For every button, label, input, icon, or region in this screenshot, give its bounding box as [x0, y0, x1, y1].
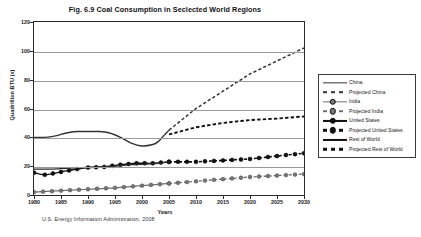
data-point-marker [275, 154, 279, 158]
y-tick-label: 120 [0, 19, 30, 25]
data-point-marker [266, 174, 270, 178]
plot-canvas [34, 22, 304, 195]
data-point-marker [68, 188, 72, 192]
legend-item-rest-of-world[interactable]: Rest of World [322, 135, 413, 145]
legend-item-projected-united-states[interactable]: Projected United States [322, 126, 413, 136]
legend-item-label: Rest of World [348, 135, 380, 144]
series-india [34, 182, 171, 194]
gridline [34, 81, 304, 82]
legend-swatch-icon [322, 97, 348, 106]
data-point-marker [257, 175, 261, 179]
data-point-marker [248, 175, 252, 179]
data-point-marker [149, 183, 153, 187]
legend-item-india[interactable]: India [322, 97, 413, 107]
legend-marker-icon [330, 127, 336, 133]
data-point-marker [176, 160, 180, 164]
legend-item-label: United States [348, 116, 380, 125]
y-tick-mark [30, 137, 33, 138]
x-tick-mark [169, 196, 170, 199]
data-point-marker [194, 179, 198, 183]
data-point-marker [266, 155, 270, 159]
legend-item-projected-india[interactable]: Projected India [322, 107, 413, 117]
data-point-marker [293, 173, 297, 177]
plot-area [33, 21, 305, 196]
gridline [34, 110, 304, 111]
x-tick-mark [115, 196, 116, 199]
y-tick-label: 60 [0, 106, 30, 112]
data-point-marker [203, 159, 207, 163]
data-point-marker [158, 182, 162, 186]
figure-coal-consumption: Fig. 6.9 Coal Consumption in Seclected W… [0, 0, 421, 237]
x-tick-mark [250, 196, 251, 199]
legend-item-projected-rest-of-world[interactable]: Projected Rest of World [322, 145, 413, 155]
x-tick-mark [142, 196, 143, 199]
data-point-marker [122, 185, 126, 189]
x-tick-mark [34, 196, 35, 199]
source-note: U.S. Energy Information Administration, … [42, 216, 155, 222]
data-point-marker [185, 160, 189, 164]
x-tick-mark [304, 196, 305, 199]
legend-marker-icon [330, 99, 336, 105]
data-point-marker [284, 173, 288, 177]
y-tick-label: 0 [0, 192, 30, 198]
data-point-marker [43, 173, 47, 177]
data-point-marker [194, 160, 198, 164]
data-point-marker [176, 181, 180, 185]
data-point-marker [302, 172, 304, 176]
data-point-marker [131, 184, 135, 188]
data-point-marker [230, 158, 234, 162]
legend-item-china[interactable]: China [322, 78, 413, 88]
legend-item-label: Projected India [348, 107, 383, 116]
data-point-marker [257, 156, 261, 160]
data-point-marker [86, 187, 90, 191]
data-point-marker [95, 187, 99, 191]
data-point-marker [230, 177, 234, 181]
legend-swatch-icon [322, 145, 348, 154]
y-tick-label: 100 [0, 48, 30, 54]
y-tick-mark [30, 80, 33, 81]
legend-item-united-states[interactable]: United States [322, 116, 413, 126]
y-tick-label: 40 [0, 134, 30, 140]
legend-swatch-icon [322, 116, 348, 125]
data-point-marker [59, 170, 63, 174]
legend-swatch-icon [322, 107, 348, 116]
x-tick-mark [223, 196, 224, 199]
legend-item-label: Projected Rest of World [348, 145, 403, 154]
y-tick-label: 20 [0, 163, 30, 169]
legend-swatch-icon [322, 135, 348, 144]
data-point-marker [50, 189, 54, 193]
x-tick-mark [277, 196, 278, 199]
gridline [34, 52, 304, 53]
series-line [169, 174, 304, 183]
y-tick-mark [30, 22, 33, 23]
y-axis-label: Quadrillion BTU (s) [9, 40, 15, 150]
legend-item-projected-china[interactable]: Projected China [322, 88, 413, 98]
series-projected-rest-of-world [169, 116, 304, 134]
data-point-marker [293, 152, 297, 156]
legend-swatch-icon [322, 78, 348, 87]
series-projected-china [169, 48, 304, 130]
series-line [34, 183, 169, 192]
data-point-marker [248, 157, 252, 161]
x-tick-label: 2030 [287, 199, 321, 205]
x-tick-mark [88, 196, 89, 199]
data-point-marker [51, 171, 55, 175]
data-point-marker [212, 178, 216, 182]
data-point-marker [34, 171, 36, 175]
series-line [169, 116, 304, 134]
y-tick-mark [30, 109, 33, 110]
y-tick-mark [30, 51, 33, 52]
data-point-marker [59, 189, 63, 193]
gridline [34, 138, 304, 139]
data-point-marker [113, 186, 117, 190]
data-point-marker [41, 190, 45, 194]
data-point-marker [239, 176, 243, 180]
series-line [169, 153, 304, 162]
legend-marker-icon [330, 118, 336, 124]
data-point-marker [104, 186, 108, 190]
legend-item-label: India [348, 97, 360, 106]
y-tick-label: 80 [0, 77, 30, 83]
legend-swatch-icon [322, 126, 348, 135]
series-line [169, 48, 304, 130]
data-point-marker [212, 159, 216, 163]
